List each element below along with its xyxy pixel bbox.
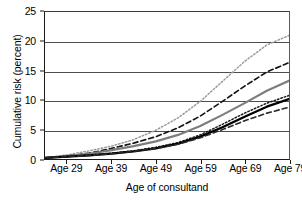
plot-area	[44, 11, 290, 160]
y-tick-label: 5	[30, 125, 36, 136]
x-tick-mark	[201, 160, 202, 164]
y-tick-label: 10	[25, 95, 36, 106]
x-tick-mark	[66, 160, 67, 164]
x-tick-label: Age 69	[229, 163, 261, 174]
x-tick-label: Age 29	[50, 163, 82, 174]
y-tick-label: 15	[25, 65, 36, 76]
series-line-series-1-highest	[45, 36, 289, 158]
y-tick-label: 0	[30, 155, 36, 166]
x-tick-mark	[111, 160, 112, 164]
cumulative-risk-line-chart: 0510152025 Cumulative risk (percent) Age…	[0, 0, 302, 211]
series-line-series-5	[45, 99, 289, 158]
x-tick-mark	[245, 160, 246, 164]
x-tick-mark	[290, 160, 291, 164]
y-tick-label: 25	[25, 6, 36, 17]
y-tick-label: 20	[25, 36, 36, 47]
x-axis-title: Age of consultand	[44, 182, 290, 193]
x-axis: Age 29Age 39Age 49Age 59Age 69Age 79	[44, 163, 290, 179]
y-axis-title: Cumulative risk (percent)	[12, 17, 23, 167]
x-tick-label: Age 49	[140, 163, 172, 174]
x-tick-label: Age 39	[95, 163, 127, 174]
x-tick-label: Age 59	[184, 163, 216, 174]
x-tick-label: Age 79	[274, 163, 302, 174]
x-tick-mark	[156, 160, 157, 164]
series-line-series-4	[45, 95, 289, 157]
series-layer	[45, 12, 289, 159]
